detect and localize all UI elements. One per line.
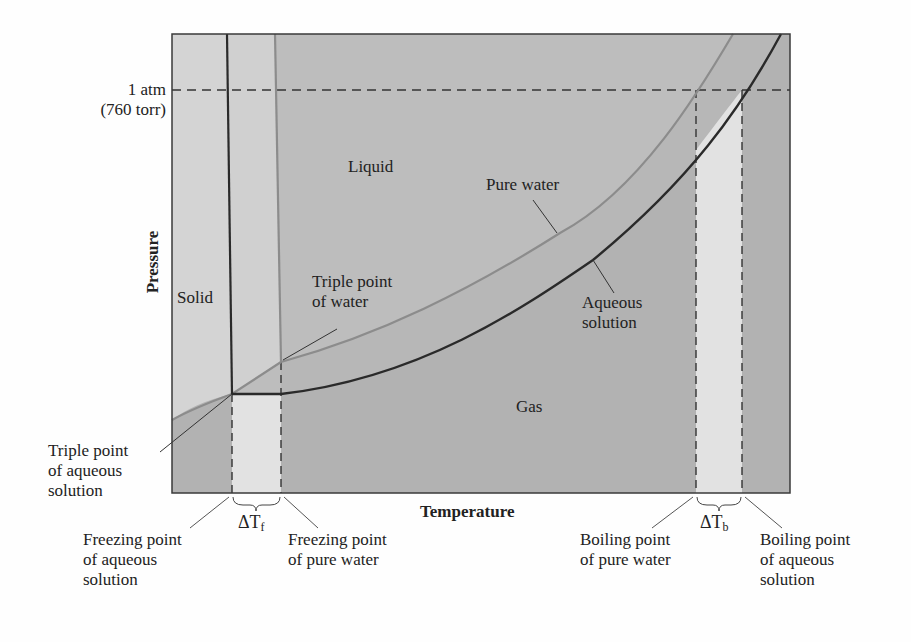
freezing-aqueous-leader <box>190 497 229 528</box>
triple-point-aqueous-line1: Triple point <box>48 441 128 461</box>
delta-tf-symbol: ΔT <box>238 512 261 532</box>
boiling-pure-line1: Boiling point <box>580 530 670 550</box>
liquid-label: Liquid <box>348 157 393 177</box>
boiling-pure-leader <box>652 497 693 528</box>
delta-tb-label: ΔTb <box>700 512 729 537</box>
delta-tb-sub: b <box>723 520 729 534</box>
boiling-aqueous-line3: solution <box>760 570 815 590</box>
pure-water-label: Pure water <box>486 175 559 195</box>
freezing-aqueous-line1: Freezing point <box>83 530 182 550</box>
delta-tb-brace <box>697 497 741 511</box>
solid-region <box>172 34 232 420</box>
boiling-aqueous-line1: Boiling point <box>760 530 850 550</box>
freezing-pure-leader <box>284 497 318 528</box>
freezing-aqueous-line2: of aqueous <box>83 550 157 570</box>
delta-tf-brace <box>233 497 280 511</box>
delta-tf-label: ΔTf <box>238 512 265 537</box>
aqueous-label-line1: Aqueous <box>582 293 642 313</box>
boiling-aqueous-line2: of aqueous <box>760 550 834 570</box>
freezing-band <box>227 34 281 394</box>
freezing-pure-line2: of pure water <box>288 550 379 570</box>
triple-point-aqueous-line3: solution <box>48 481 103 501</box>
phase-diagram: Pressure 1 atm (760 torr) Solid Liquid G… <box>0 0 911 642</box>
y-axis-label: Pressure <box>143 230 162 293</box>
triple-point-aqueous-line2: of aqueous <box>48 461 122 481</box>
boiling-aqueous-leader <box>745 497 782 528</box>
one-atm-label: 1 atm <box>60 80 166 100</box>
boiling-pure-line2: of pure water <box>580 550 671 570</box>
torr-label: (760 torr) <box>60 100 166 120</box>
delta-tb-symbol: ΔT <box>700 512 723 532</box>
aqueous-label-line2: solution <box>582 313 637 333</box>
triple-point-water-line2: of water <box>312 292 368 312</box>
triple-point-water-line1: Triple point <box>312 272 392 292</box>
delta-tf-sub: f <box>261 520 265 534</box>
delta-tf-band <box>232 394 281 493</box>
x-axis-label: Temperature <box>420 502 514 522</box>
freezing-aqueous-line3: solution <box>83 570 138 590</box>
gas-label: Gas <box>516 397 542 417</box>
freezing-pure-line1: Freezing point <box>288 530 387 550</box>
solid-label: Solid <box>177 288 213 308</box>
